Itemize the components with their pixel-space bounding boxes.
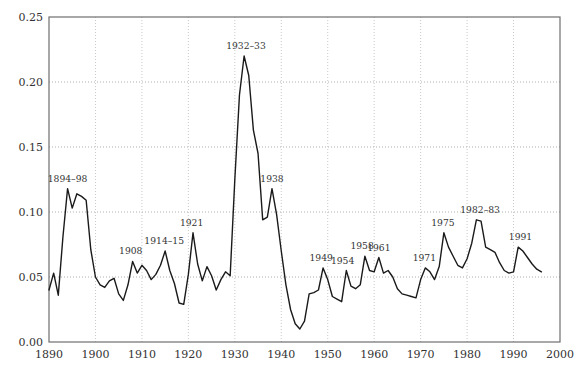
y-axis-tick-label: 0.10 — [19, 206, 44, 219]
peak-annotation: 1938 — [260, 173, 284, 184]
peak-annotation: 1894–98 — [48, 173, 88, 184]
peak-annotation: 1975 — [431, 217, 455, 228]
x-axis-tick-label: 1970 — [407, 348, 435, 361]
x-axis-tick-label: 1900 — [81, 348, 109, 361]
peak-annotation: 1932–33 — [226, 40, 266, 51]
peak-annotation: 1961 — [367, 242, 390, 253]
x-axis-tick-label: 1960 — [360, 348, 388, 361]
unemployment-rate-chart: 1890190019101920193019401950196019701980… — [0, 0, 588, 382]
peak-annotation: 1914–15 — [144, 235, 184, 246]
x-axis-tick-label: 1930 — [221, 348, 249, 361]
peak-annotation: 1982–83 — [460, 204, 500, 215]
y-axis-tick-label: 0.15 — [19, 141, 44, 154]
y-axis-tick-label: 0.00 — [19, 336, 44, 349]
peak-annotation: 1991 — [509, 231, 532, 242]
peak-annotation: 1954 — [331, 255, 355, 266]
x-axis-tick-label: 1990 — [500, 348, 528, 361]
x-axis-tick-label: 1950 — [314, 348, 342, 361]
peak-annotation: 1949 — [310, 252, 334, 263]
peak-annotation: 1908 — [119, 245, 143, 256]
x-axis-tick-label: 2000 — [546, 348, 574, 361]
x-axis-tick-label: 1910 — [128, 348, 156, 361]
data-line-unemployment-rate — [49, 56, 541, 329]
x-axis-tick-label: 1890 — [35, 348, 63, 361]
chart-canvas: 1890190019101920193019401950196019701980… — [0, 0, 588, 382]
y-axis-tick-label: 0.05 — [19, 271, 44, 284]
x-axis-tick-label: 1940 — [267, 348, 295, 361]
y-axis-tick-label: 0.25 — [19, 11, 44, 24]
peak-annotation: 1921 — [180, 217, 203, 228]
y-axis-tick-label: 0.20 — [19, 76, 44, 89]
peak-annotation: 1971 — [413, 252, 436, 263]
x-axis-tick-label: 1980 — [453, 348, 481, 361]
x-axis-tick-label: 1920 — [174, 348, 202, 361]
